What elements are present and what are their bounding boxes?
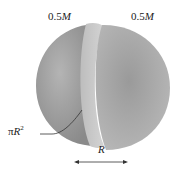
- radius-var: R: [98, 143, 105, 155]
- arrowhead-left-icon: [74, 160, 79, 164]
- right-mass-unit: M: [145, 10, 154, 22]
- left-mass-label: 0.5M: [48, 10, 71, 22]
- left-mass-value: 0.5: [48, 10, 62, 22]
- right-mass-value: 0.5: [131, 10, 145, 22]
- right-hemisphere: [96, 25, 170, 150]
- arrowhead-right-icon: [123, 160, 128, 164]
- right-mass-label: 0.5M: [131, 10, 154, 22]
- cross-section-area-label: πR2: [8, 124, 24, 137]
- radius-label: R: [98, 143, 105, 155]
- left-mass-unit: M: [62, 10, 71, 22]
- split-sphere-figure: [0, 0, 181, 174]
- area-exponent: 2: [20, 124, 24, 132]
